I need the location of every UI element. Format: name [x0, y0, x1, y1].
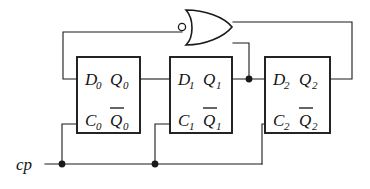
flip-flop-0-qbar-label: Q	[110, 111, 122, 130]
flip-flop-1[interactable]: D 1 Q 1 C 1 Q 1	[170, 57, 232, 133]
circuit-diagram: D 0 Q 0 C 0 Q 0 D 1 Q 1 C 1 Q 1 D 2 Q 2 …	[0, 0, 370, 189]
flip-flop-2-qbar-sub: 2	[312, 120, 318, 132]
clock-input-label: cp	[16, 155, 32, 174]
flip-flop-0-q-sub: 0	[123, 79, 129, 91]
junction-dot-clock-1	[152, 161, 159, 168]
flip-flop-1-d-sub: 1	[189, 79, 195, 91]
flip-flop-2-q-label: Q	[299, 70, 311, 89]
flip-flop-2-q-sub: 2	[312, 79, 318, 91]
flip-flop-1-qbar-label: Q	[203, 111, 215, 130]
inversion-bubble-icon	[178, 23, 185, 30]
flip-flop-1-c-sub: 1	[189, 120, 195, 132]
flip-flop-2-c-sub: 2	[284, 120, 290, 132]
flip-flop-2[interactable]: D 2 Q 2 C 2 Q 2	[265, 57, 330, 133]
flip-flop-0-q-label: Q	[110, 70, 122, 89]
junction-dot-clock-0	[59, 161, 66, 168]
flip-flop-2-qbar-label: Q	[299, 111, 311, 130]
flip-flop-1-q-label: Q	[203, 70, 215, 89]
flip-flop-1-q-sub: 1	[216, 79, 222, 91]
junction-dot-q1	[246, 76, 253, 83]
flip-flop-0-qbar-sub: 0	[123, 120, 129, 132]
flip-flop-2-d-sub: 2	[284, 79, 290, 91]
flip-flop-0-d-sub: 0	[96, 79, 102, 91]
flip-flop-0-c-sub: 0	[96, 120, 102, 132]
flip-flop-0[interactable]: D 0 Q 0 C 0 Q 0	[77, 57, 140, 133]
flip-flop-1-qbar-sub: 1	[216, 120, 222, 132]
circuit-canvas: D 0 Q 0 C 0 Q 0 D 1 Q 1 C 1 Q 1 D 2 Q 2 …	[0, 0, 370, 189]
